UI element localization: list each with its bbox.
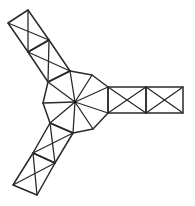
cross-brace [48, 40, 49, 82]
hub-spoke [48, 82, 75, 102]
right-arm [108, 87, 183, 113]
truss-diagram [0, 0, 195, 206]
hub-spoke [73, 102, 75, 133]
hub-spoke [75, 102, 93, 129]
hub-center-node [74, 101, 77, 104]
hub-spoke [50, 102, 75, 123]
upper-left-arm [8, 10, 70, 82]
hub-spoke [43, 102, 75, 103]
lower-left-arm [13, 123, 73, 195]
hub-spoke [75, 102, 108, 113]
arms [8, 10, 183, 195]
hub-spoke [70, 71, 75, 102]
